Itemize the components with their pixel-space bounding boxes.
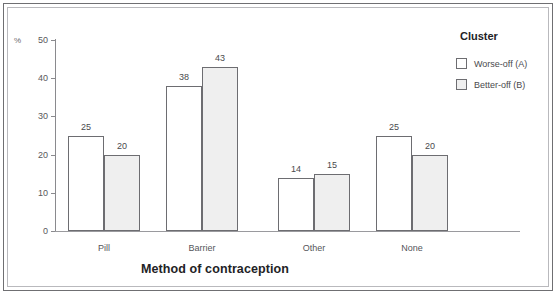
bar-value-label: 38 (166, 73, 202, 82)
y-tick-0 (51, 231, 55, 232)
bar-value-label: 43 (202, 54, 238, 63)
bar-value-label: 25 (68, 123, 104, 132)
legend-item-worse-off[interactable]: Worse-off (A) (456, 58, 551, 69)
category-label-other: Other (264, 243, 364, 253)
category-label-pill: Pill (54, 243, 154, 253)
bar-other-a[interactable] (278, 178, 314, 231)
legend-swatch-better-off (456, 79, 467, 90)
bar-value-label: 20 (412, 142, 448, 151)
bar-none-a[interactable] (376, 136, 412, 232)
legend-label-worse-off: Worse-off (A) (474, 59, 527, 69)
category-label-none: None (362, 243, 462, 253)
bar-barrier-b[interactable] (202, 67, 238, 231)
bar-pill-b[interactable] (104, 155, 140, 231)
legend-swatch-worse-off (456, 58, 467, 69)
bar-value-label: 15 (314, 161, 350, 170)
x-axis-title: Method of contraception (0, 262, 430, 276)
legend-title: Cluster (460, 30, 551, 42)
x-axis-line (55, 231, 520, 232)
bar-pill-a[interactable] (68, 136, 104, 232)
bar-other-b[interactable] (314, 174, 350, 231)
legend-label-better-off: Better-off (B) (474, 80, 525, 90)
bar-none-b[interactable] (412, 155, 448, 231)
category-label-barrier: Barrier (152, 243, 252, 253)
legend-item-better-off[interactable]: Better-off (B) (456, 79, 551, 90)
bar-value-label: 14 (278, 165, 314, 174)
legend: Cluster Worse-off (A) Better-off (B) (456, 30, 551, 100)
bar-barrier-a[interactable] (166, 86, 202, 231)
bar-value-label: 20 (104, 142, 140, 151)
plot-area: % 01020304050 PillBarrierOtherNone Metho… (0, 0, 558, 296)
figure-container: % 01020304050 PillBarrierOtherNone Metho… (0, 0, 558, 296)
bar-value-label: 25 (376, 123, 412, 132)
